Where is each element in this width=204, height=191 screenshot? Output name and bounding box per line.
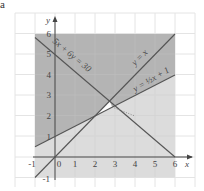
x-tick: -1 xyxy=(28,159,36,169)
y-tick: 4 xyxy=(47,70,52,80)
y-tick: 3 xyxy=(47,90,52,100)
x-tick: 2 xyxy=(93,159,98,169)
x-tick: 4 xyxy=(133,159,138,169)
y-axis-arrow-icon xyxy=(53,16,58,22)
y-tick: 5 xyxy=(47,49,52,59)
y-axis-label: y xyxy=(45,15,50,25)
x-tick: 0 xyxy=(57,159,62,169)
x-tick: 6 xyxy=(173,159,178,169)
y-tick: 6 xyxy=(47,29,52,39)
graph: -1 0 1 2 3 4 5 6 x -1 1 2 3 4 5 6 y 5x +… xyxy=(0,0,204,191)
x-axis-label: x xyxy=(184,159,189,169)
y-tick: 1 xyxy=(47,132,52,142)
x-tick: 5 xyxy=(153,159,158,169)
x-tick: 1 xyxy=(73,159,78,169)
x-tick: 3 xyxy=(113,159,118,169)
y-tick: 2 xyxy=(47,111,52,121)
y-tick: -1 xyxy=(43,174,51,184)
